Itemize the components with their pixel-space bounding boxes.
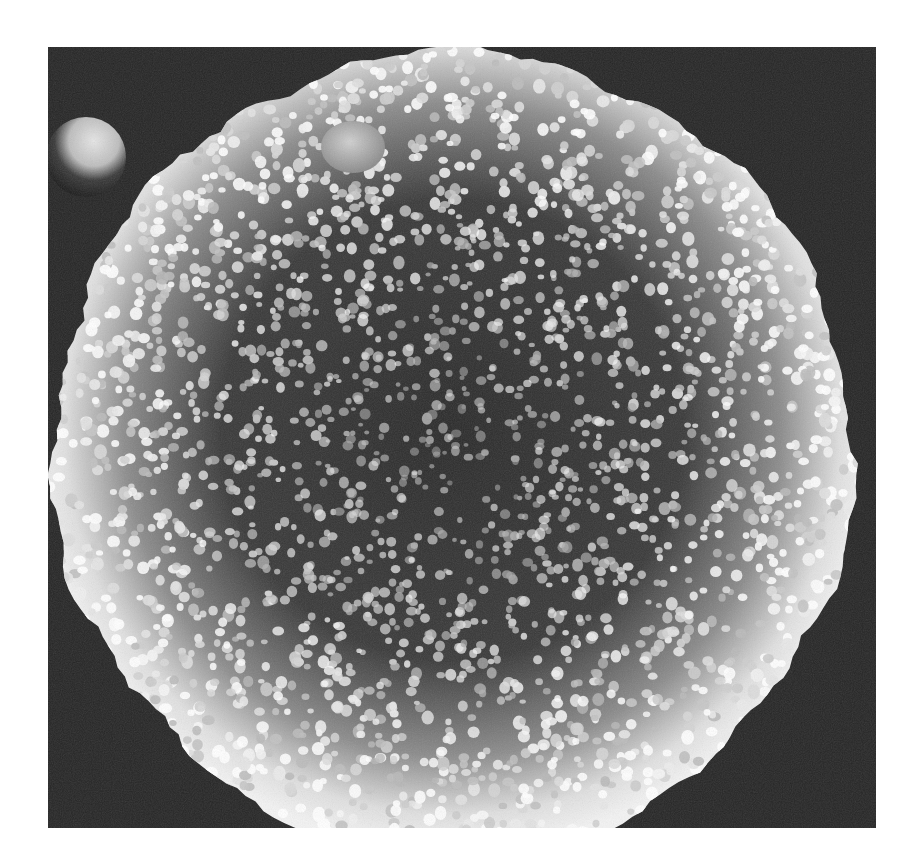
film-grain: [48, 47, 876, 828]
micrograph-image: [48, 47, 876, 828]
page: [0, 0, 924, 861]
sem-sphere-render: [48, 47, 876, 828]
